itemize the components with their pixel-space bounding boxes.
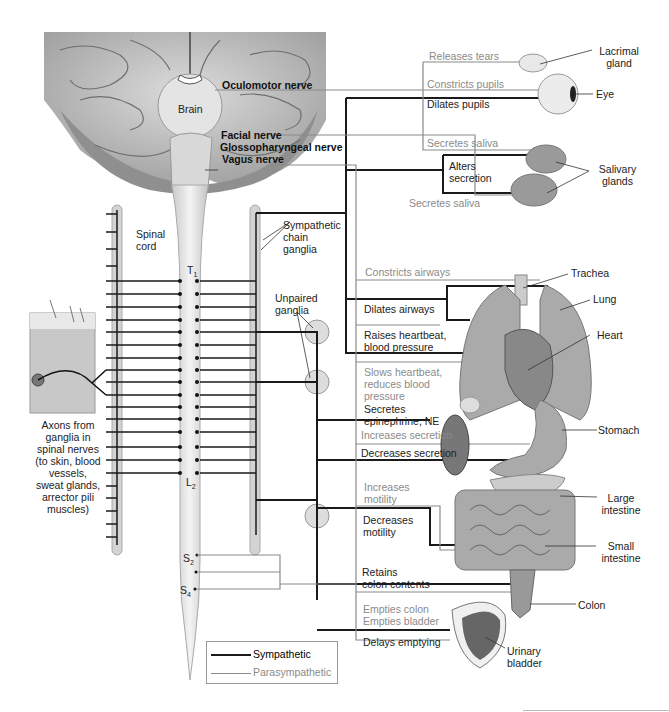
- effect-secretes-epinephrine: Secretes epinephrine, NE: [364, 403, 439, 427]
- legend-label-parasympathetic: Parasympathetic: [253, 666, 331, 678]
- s2-label: S2: [183, 552, 194, 569]
- effect-retains-colon-contents: Retains colon contents: [362, 566, 430, 590]
- right-spinal-nerve-lines: [200, 213, 256, 535]
- anatomy-diagram: Oculomotor nerve Brain Facial nerve Glos…: [0, 0, 669, 712]
- effect-increases-motility: Increases motility: [364, 481, 410, 505]
- s4-label: S4: [180, 584, 191, 601]
- l2-subscript: 2: [192, 483, 196, 490]
- organ-label-heart: Heart: [597, 329, 623, 341]
- glossopharyngeal-nerve-label: Glossopharyngeal nerve: [220, 141, 343, 153]
- organ-label-eye: Eye: [596, 88, 614, 100]
- s2-letter: S: [183, 552, 190, 564]
- spinal-cord-label: Spinal cord: [136, 228, 165, 252]
- effect-dilates-pupils: Dilates pupils: [427, 98, 489, 110]
- effect-decreases-secretion: Decreases secretion: [361, 447, 457, 459]
- organ-label-trachea: Trachea: [571, 267, 609, 279]
- effect-raises-heartbeat: Raises heartbeat, blood pressure: [364, 329, 446, 353]
- organ-label-colon: Colon: [578, 599, 605, 611]
- effect-alters-secretion: Alters secretion: [449, 160, 492, 184]
- effect-dilates-airways: Dilates airways: [364, 303, 435, 315]
- s2-subscript: 2: [190, 559, 194, 566]
- footer-rule: [523, 710, 669, 711]
- sympathetic-chain-ganglia-label: Sympathetic chain ganglia: [283, 219, 341, 255]
- effect-constricts-airways: Constricts airways: [365, 266, 450, 278]
- sympathetic-chain-right: [250, 205, 260, 555]
- oculomotor-nerve-label: Oculomotor nerve: [222, 79, 312, 91]
- organ-label-lacrimal-gland: Lacrimal gland: [594, 45, 644, 69]
- diagram-artwork: [0, 0, 669, 712]
- sympathetic-swatch: [211, 654, 251, 656]
- brain-label: Brain: [178, 103, 203, 115]
- l2-label: L2: [186, 476, 196, 493]
- legend-item-sympathetic: Sympathetic: [211, 648, 311, 660]
- legend-label-sympathetic: Sympathetic: [253, 648, 311, 660]
- organ-label-stomach: Stomach: [598, 424, 639, 436]
- legend-item-parasympathetic: Parasympathetic: [211, 666, 331, 678]
- eye-illustration: [538, 74, 578, 114]
- effect-secretes-saliva-2: Secretes saliva: [409, 197, 480, 209]
- organ-label-urinary-bladder: Urinary bladder: [507, 645, 542, 669]
- effect-secretes-saliva-1: Secretes saliva: [427, 137, 498, 149]
- lungs-heart-illustration: [460, 275, 591, 420]
- effect-decreases-motility: Decreases motility: [363, 514, 413, 538]
- organ-label-lung: Lung: [593, 293, 616, 305]
- facial-nerve-label: Facial nerve: [221, 129, 282, 141]
- left-spinal-nerve-lines: [106, 210, 180, 545]
- organ-label-salivary-glands: Salivary glands: [590, 163, 645, 187]
- effect-constricts-pupils: Constricts pupils: [427, 78, 504, 90]
- effect-slows-heartbeat: Slows heartbeat, reduces blood pressure: [364, 366, 442, 402]
- legend: Sympathetic Parasympathetic: [206, 641, 338, 684]
- effect-releases-tears: Releases tears: [429, 50, 499, 62]
- effect-delays-emptying: Delays emptying: [363, 636, 441, 648]
- s4-subscript: 4: [187, 591, 191, 598]
- organ-label-small-intestine: Small intestine: [596, 540, 646, 564]
- t1-subscript: 1: [193, 271, 197, 278]
- t1-label: T1: [187, 264, 197, 281]
- s4-letter: S: [180, 584, 187, 596]
- unpaired-ganglia-label: Unpaired ganglia: [275, 292, 318, 316]
- parasympathetic-swatch: [211, 673, 251, 674]
- effect-empties-colon-bladder: Empties colon Empties bladder: [363, 603, 439, 627]
- vagus-nerve-label: Vagus nerve: [222, 153, 284, 165]
- organ-label-large-intestine: Large intestine: [596, 492, 646, 516]
- effect-increases-secretion: Increases secretion: [361, 429, 452, 441]
- skin-illustration: [30, 300, 106, 413]
- skin-axons-caption: Axons from ganglia in spinal nerves (to …: [28, 419, 108, 515]
- bladder-illustration: [452, 602, 506, 668]
